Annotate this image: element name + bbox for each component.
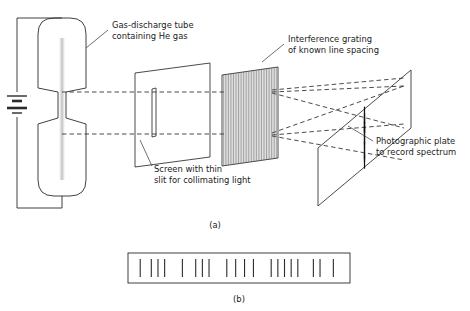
- ray-upper-to-plate-top: [272, 78, 404, 90]
- figure-canvas: Gas-discharge tubecontaining He gasInter…: [0, 0, 470, 311]
- interference-grating: [222, 67, 278, 166]
- screen-slit: [152, 88, 156, 137]
- gas-discharge-tube-label: Gas-discharge tubecontaining He gas: [112, 20, 194, 41]
- collimating-slit-label: Screen with thinslit for collimating lig…: [154, 164, 251, 185]
- interference-grating-label: Interference gratingof known line spacin…: [288, 34, 379, 55]
- collimating-slit-label-leader: [140, 140, 152, 166]
- spectrum-strip: [128, 253, 350, 283]
- panel-label-b: (b): [233, 294, 245, 304]
- screen-panel: [135, 63, 210, 167]
- collimating-screen: [135, 63, 210, 167]
- tube-plasma-glow: [59, 38, 65, 180]
- circuit-wire-bottom: [17, 117, 62, 208]
- ray-upper-fan-down: [272, 93, 404, 128]
- annotation-labels: Gas-discharge tubecontaining He gasInter…: [112, 20, 456, 185]
- gas-discharge-tube: [38, 18, 86, 208]
- gas-discharge-tube-label-leader: [86, 30, 108, 48]
- spectrum-strip-frame: [128, 253, 350, 283]
- photographic-plate-label-leader: [348, 126, 373, 141]
- ray-lower-to-plate: [272, 124, 404, 135]
- photographic-plate-label: Photographic plateto record spectrum: [376, 136, 456, 157]
- interference-grating-label-leader: [262, 44, 284, 62]
- panel-label-a: (a): [209, 220, 221, 230]
- circuit-wire-top: [17, 18, 62, 92]
- ray-upper-to-plate-mid: [272, 86, 404, 92]
- spectroscopy-figure: Gas-discharge tubecontaining He gasInter…: [0, 0, 470, 311]
- battery-circuit: [7, 18, 62, 208]
